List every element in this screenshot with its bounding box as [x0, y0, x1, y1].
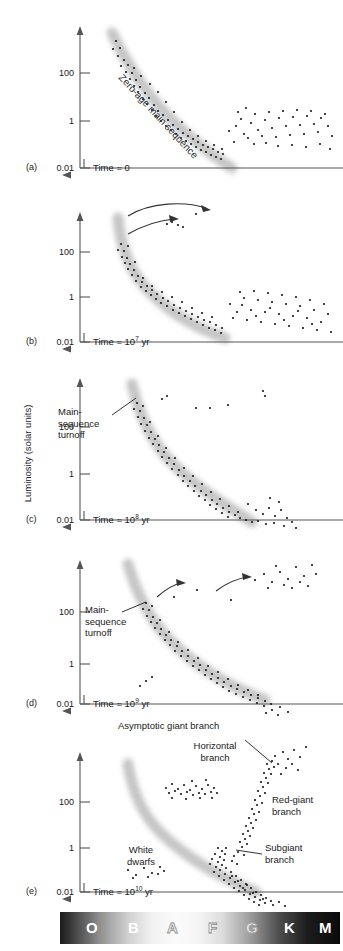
y-tick-100-b: 100	[42, 247, 74, 257]
msto-line3-d: turnoff	[85, 627, 126, 639]
zero-age-main-sequence-text: Zero-age main sequence	[117, 72, 201, 161]
msto-line3-c: turnoff	[58, 429, 99, 441]
spectral-class-G: G	[246, 919, 258, 936]
evolution-arrows-b	[128, 204, 206, 234]
spectral-class-M: M	[319, 919, 332, 936]
subgiant-leader	[236, 850, 262, 854]
white-dwarf-points	[127, 866, 165, 879]
horizontal-branch-points	[165, 779, 218, 800]
time-label-e: Time = 1010 yr	[93, 885, 153, 897]
y-tick-1-b: 1	[42, 292, 74, 302]
panel-b: (b) 100 1 0.01 Time = 107 yr	[0, 192, 343, 360]
star-points-c	[133, 390, 297, 529]
hb-line1: Horizontal	[172, 740, 258, 752]
y-tick-001-c: 0.01	[36, 515, 74, 525]
spectral-class-B: B	[128, 919, 139, 936]
spectral-class-F: F	[208, 919, 217, 936]
time-label-d: Time = 109 yr	[93, 697, 149, 709]
msto-line1-c: Main-	[58, 406, 99, 418]
star-points-b	[117, 213, 332, 334]
turnoff-leader-c	[112, 398, 136, 415]
y-tick-100-e: 100	[42, 797, 74, 807]
panel-a-plot: Zero-age main sequence	[0, 18, 343, 186]
y-tick-001-e: 0.01	[36, 887, 74, 897]
spectral-class-O: O	[86, 919, 98, 936]
panel-c-plot	[0, 370, 343, 538]
panel-d: (d) 100 1 0.01 Time = 109 yr Main- seque…	[0, 552, 343, 720]
spectral-class-K: K	[284, 919, 295, 936]
panel-a: Zero-age main sequence (a) 100 1 0.01 Ti…	[0, 18, 343, 186]
y-tick-100-a: 100	[42, 68, 74, 78]
cropped-page-header	[0, 0, 343, 14]
panel-e: (e) 100 1 0.01 Time = 1010 yr Asymptotic…	[0, 732, 343, 912]
spectral-class-bar: O B A F G K M	[60, 912, 340, 944]
star-points-d	[139, 564, 317, 716]
msto-line2-d: sequence	[85, 616, 126, 628]
rgb-line2: branch	[272, 806, 313, 818]
time-label-c: Time = 108 yr	[93, 513, 149, 525]
y-axis-arrow-a	[77, 26, 84, 35]
sgb-line2: branch	[265, 854, 303, 866]
spectral-class-A: A	[167, 919, 178, 936]
white-dwarfs-label: White dwarfs	[114, 844, 168, 867]
y-axis-arrow-d	[77, 560, 84, 569]
main-sequence-turnoff-label-c: Main- sequence turnoff	[58, 406, 99, 441]
evolution-arrows-d	[157, 577, 248, 597]
hb-line2: branch	[172, 752, 258, 764]
y-tick-001-a: 0.01	[36, 163, 74, 173]
y-tick-1-e: 1	[42, 843, 74, 853]
y-tick-001-b: 0.01	[36, 337, 74, 347]
wd-line2: dwarfs	[114, 856, 168, 868]
y-tick-1-c: 1	[42, 469, 74, 479]
red-giant-branch-label: Red-giant branch	[272, 794, 313, 817]
msto-line1-d: Main-	[85, 604, 126, 616]
y-tick-100-d: 100	[42, 607, 74, 617]
asymptotic-giant-branch-label: Asymptotic giant branch	[118, 720, 219, 732]
main-sequence-turnoff-label-d: Main- sequence turnoff	[85, 604, 126, 639]
y-tick-001-d: 0.01	[36, 699, 74, 709]
panel-b-plot	[0, 192, 343, 360]
msto-line2-c: sequence	[58, 418, 99, 430]
y-axis-arrow-b	[77, 212, 84, 221]
sgb-line1: Subgiant	[265, 842, 303, 854]
rgb-line1: Red-giant	[272, 794, 313, 806]
spectral-gradient	[60, 912, 340, 944]
y-axis-arrow-e	[77, 752, 84, 761]
panel-label-c: (c)	[26, 514, 37, 524]
wd-line1: White	[114, 844, 168, 856]
hr-diagram-figure: Luminosity (solar units)	[0, 0, 343, 951]
time-label-b: Time = 107 yr	[93, 335, 149, 347]
y-axis-arrow-c	[77, 378, 84, 387]
y-tick-1-a: 1	[42, 116, 74, 126]
y-tick-1-d: 1	[42, 659, 74, 669]
horizontal-branch-label: Horizontal branch	[172, 740, 258, 763]
panel-d-plot	[0, 552, 343, 720]
subgiant-branch-label: Subgiant branch	[265, 842, 303, 865]
panel-c: (c) 100 1 0.01 Time = 108 yr Main- seque…	[0, 370, 343, 538]
time-label-a: Time = 0	[93, 162, 130, 173]
